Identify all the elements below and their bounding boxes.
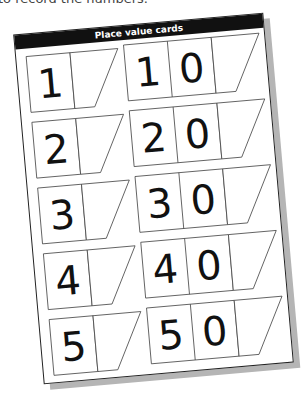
right-card-4-tab [234,296,287,356]
right-card-3-digit: 0 [194,241,223,289]
worksheet: Place value cards 123451020304050 [13,13,294,385]
worksheet-page: Place value cards 123451020304050 [13,13,294,385]
right-card-4-digit: 0 [200,307,229,355]
right-card-2-tab [223,165,276,225]
left-card-1-tab [76,114,129,174]
caption-text: to record the numbers. [0,0,148,6]
right-card-1-digit: 0 [183,110,212,158]
left-card-4-digit: 5 [59,323,88,371]
left-card-3-digit: 4 [53,257,82,305]
right-card-3-tab [228,230,281,290]
left-card-4-tab [93,312,146,372]
left-card-1-digit: 2 [42,125,71,173]
right-card-0-digit: 1 [133,48,162,96]
right-card-2-digit: 3 [145,179,174,227]
right-card-1-tab [217,99,270,159]
right-card-0-digit: 0 [177,44,206,92]
left-card-2-tab [81,180,134,240]
left-card-2-digit: 3 [47,191,76,239]
right-card-2-digit: 0 [189,176,218,224]
right-card-0-tab [211,33,264,93]
place-value-cards: 123451020304050 [14,14,292,383]
left-card-0-tab [70,49,123,109]
right-card-1-digit: 2 [139,114,168,162]
left-card-0-digit: 1 [36,60,65,108]
left-card-3-tab [87,246,140,306]
right-card-4-digit: 5 [156,311,185,359]
right-card-3-digit: 4 [151,245,180,293]
